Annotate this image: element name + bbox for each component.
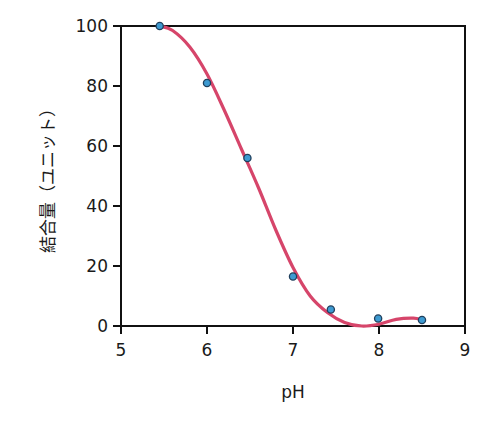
y-tick-label: 60: [86, 136, 108, 156]
y-axis: 020406080100: [76, 16, 121, 336]
data-point: [418, 316, 425, 323]
x-tick-label: 5: [116, 340, 127, 360]
x-axis-title: pH: [281, 382, 305, 402]
data-point: [289, 273, 296, 280]
x-axis: 56789: [116, 326, 471, 360]
y-tick-label: 80: [86, 76, 108, 96]
fit-curve: [160, 26, 422, 326]
data-point: [375, 315, 382, 322]
x-tick-label: 6: [202, 340, 213, 360]
plot-frame: [121, 26, 465, 326]
x-tick-label: 9: [460, 340, 471, 360]
x-tick-label: 7: [288, 340, 299, 360]
data-point: [203, 79, 210, 86]
chart: 020406080100 56789 pH 結合量（ユニット）: [0, 0, 500, 427]
data-point: [327, 306, 334, 313]
x-tick-label: 8: [374, 340, 385, 360]
y-tick-label: 20: [86, 256, 108, 276]
y-tick-label: 100: [76, 16, 108, 36]
y-tick-label: 0: [97, 316, 108, 336]
y-tick-label: 40: [86, 196, 108, 216]
data-point: [244, 154, 251, 161]
data-points: [156, 22, 426, 323]
data-point: [156, 22, 163, 29]
y-axis-title: 結合量（ユニット）: [38, 100, 58, 253]
